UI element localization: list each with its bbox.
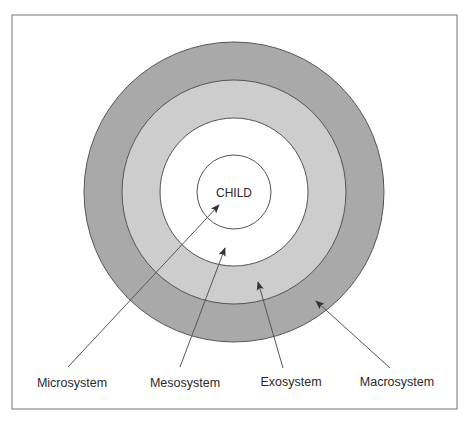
ecological-systems-diagram: CHILD Microsystem Mesosystem Exosystem M…	[0, 0, 469, 421]
child-label: CHILD	[216, 186, 252, 200]
microsystem-label: Microsystem	[37, 376, 107, 390]
mesosystem-label: Mesosystem	[150, 376, 220, 390]
exosystem-label: Exosystem	[260, 375, 321, 389]
macrosystem-label: Macrosystem	[360, 375, 434, 389]
